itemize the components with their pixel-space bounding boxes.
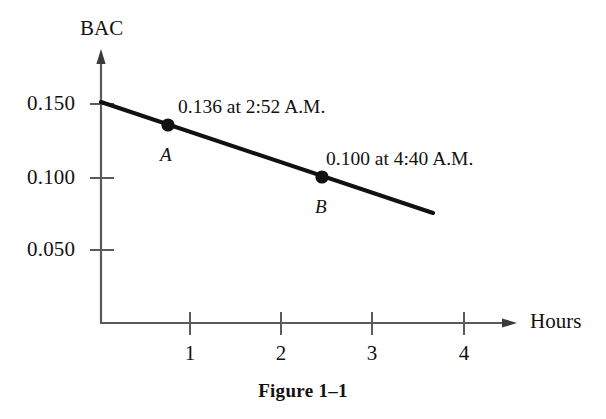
y-axis (96, 49, 105, 323)
annotation-a-text: 0.136 at 2:52 A.M. (178, 96, 325, 117)
y-tick-label-0050: 0.050 (27, 239, 75, 260)
annotation-b-text: 0.100 at 4:40 A.M. (326, 148, 473, 169)
x-axis-title: Hours (530, 311, 581, 332)
data-point-a (161, 118, 174, 131)
x-tick-label-4: 4 (452, 343, 476, 364)
x-axis (100, 318, 517, 327)
figure-container: BAC Hours 0.150 0.100 0.050 1 2 3 4 0.13… (0, 0, 606, 419)
annotation-point-a: 0.136 at 2:52 A.M. (178, 97, 325, 117)
x-tick-label-3: 3 (360, 343, 384, 364)
y-axis-title: BAC (80, 18, 123, 39)
point-label-b: B (315, 197, 327, 216)
annotation-point-b: 0.100 at 4:40 A.M. (326, 149, 473, 169)
y-tick-label-0100: 0.100 (27, 167, 75, 188)
point-label-a: A (160, 145, 172, 164)
figure-caption: Figure 1–1 (0, 381, 606, 400)
x-tick-label-2: 2 (269, 343, 293, 364)
chart-canvas (0, 0, 606, 419)
x-tick-label-1: 1 (178, 343, 202, 364)
data-point-b (315, 170, 328, 183)
y-tick-label-0150: 0.150 (27, 93, 75, 114)
